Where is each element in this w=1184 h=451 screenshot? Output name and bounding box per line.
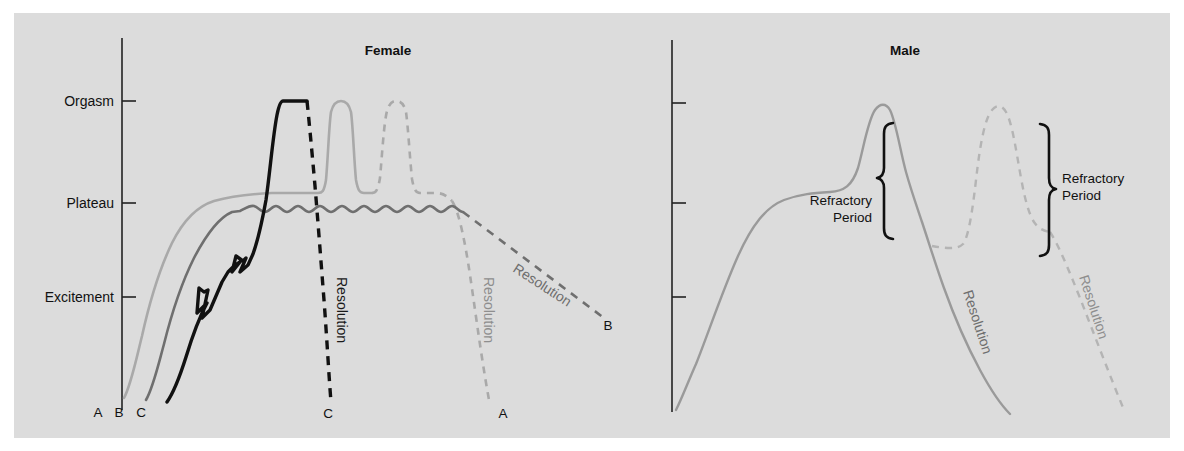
male-panel-title: Male: [890, 43, 921, 58]
female-label-a-start: A: [93, 405, 102, 420]
male-resolution-label-1: Resolution: [960, 288, 996, 356]
sexual-response-cycle-chart: Orgasm Plateau Excitement Female A B C C: [0, 0, 1184, 451]
female-resolution-label-c: Resolution: [334, 277, 350, 343]
male-refractory-label-2-line2: Period: [1062, 188, 1101, 203]
female-panel: Orgasm Plateau Excitement Female A B C C: [45, 38, 613, 421]
female-curve-b-solid: [146, 206, 463, 400]
male-refractory-label-1-line2: Period: [833, 210, 872, 225]
male-panel: Male Refractory Period Refractory Period…: [672, 40, 1125, 414]
female-label-c-end: C: [323, 406, 333, 421]
female-curve-c-solid: [167, 101, 307, 402]
male-refractory-bracket-1: [877, 123, 893, 239]
male-curve-dashed: [932, 106, 1050, 248]
female-label-b-end: B: [603, 318, 612, 333]
y-axis-label-excitement: Excitement: [45, 289, 114, 305]
male-curve-solid: [676, 105, 1010, 414]
y-axis-label-orgasm: Orgasm: [64, 93, 114, 109]
male-resolution-label-2: Resolution: [1076, 273, 1112, 341]
male-refractory-label-1-line1: Refractory: [810, 193, 873, 208]
female-label-a-end: A: [498, 406, 507, 421]
figure-stage: Orgasm Plateau Excitement Female A B C C: [0, 0, 1184, 451]
female-resolution-label-b: Resolution: [510, 260, 574, 309]
female-panel-title: Female: [365, 43, 412, 58]
y-axis-label-plateau: Plateau: [67, 195, 114, 211]
female-label-b-start: B: [114, 405, 123, 420]
female-curve-a-dashed-peak: [372, 101, 452, 201]
male-curve-dashed-resolution: [1050, 232, 1124, 410]
male-refractory-label-2-line1: Refractory: [1062, 171, 1125, 186]
female-label-c-start: C: [136, 405, 146, 420]
female-resolution-label-a: Resolution: [481, 277, 497, 343]
